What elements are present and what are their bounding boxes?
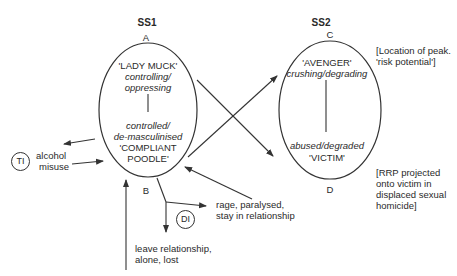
branch-stem <box>157 178 166 202</box>
ss1-point-a: A <box>143 32 149 43</box>
ss2-title: SS2 <box>312 17 331 28</box>
ss1-upper-role: 'LADY MUCK' <box>119 60 178 71</box>
peak-annotation-1: [Location of peak. <box>376 45 451 56</box>
alcohol-label-1: alcohol <box>36 150 66 161</box>
arrow-to-rage <box>166 202 206 206</box>
rage-label-2: stay in relationship <box>216 210 295 221</box>
arrow-ss1-to-victim <box>197 80 273 156</box>
ss1-point-b: B <box>143 185 149 196</box>
ss2-upper-role: 'AVENGER' <box>302 57 351 68</box>
arrow-ss1-to-avenger <box>188 76 277 157</box>
rrp-annotation-4: homicide] <box>376 200 417 211</box>
rrp-annotation-3: displaced sexual <box>376 189 446 200</box>
ss1-lower-role-2: POODLE' <box>127 153 168 164</box>
ss2-point-c: C <box>327 29 334 40</box>
t1-node: TI <box>11 152 30 171</box>
ss1-upper-desc-1: controlling/ <box>125 71 171 82</box>
peak-annotation-2: 'risk potential'] <box>376 56 436 67</box>
ss2-point-d: D <box>327 184 334 195</box>
ss2-lower-role: 'VICTIM' <box>309 152 345 163</box>
ss1-lower-desc-2: de-masculinised <box>114 131 183 142</box>
ss2-lower-desc: abused/degraded <box>290 140 364 151</box>
arrow-alcohol-to-ss1 <box>72 161 103 164</box>
rrp-annotation-2: onto victim in <box>376 178 431 189</box>
arrow-ss1-to-alcohol <box>64 139 95 144</box>
ss1-title: SS1 <box>138 17 157 28</box>
arrow-rage-to-ss1 <box>185 167 252 199</box>
ss1-lower-role-1: 'COMPLIANT <box>119 142 176 153</box>
alcohol-label-2: misuse <box>39 161 69 172</box>
leave-label-1: leave relationship, <box>135 243 212 254</box>
rage-label-1: rage, paralysed, <box>216 199 284 210</box>
diagram-graphics <box>0 0 457 276</box>
ss2-upper-desc: crushing/degrading <box>287 68 368 79</box>
ss1-lower-desc-1: controlled/ <box>126 120 170 131</box>
leave-label-2: alone, lost <box>135 254 178 265</box>
d1-node: DI <box>176 210 195 229</box>
ss1-upper-desc-2: oppressing <box>125 82 171 93</box>
rrp-annotation-1: [RRP projected <box>376 167 440 178</box>
